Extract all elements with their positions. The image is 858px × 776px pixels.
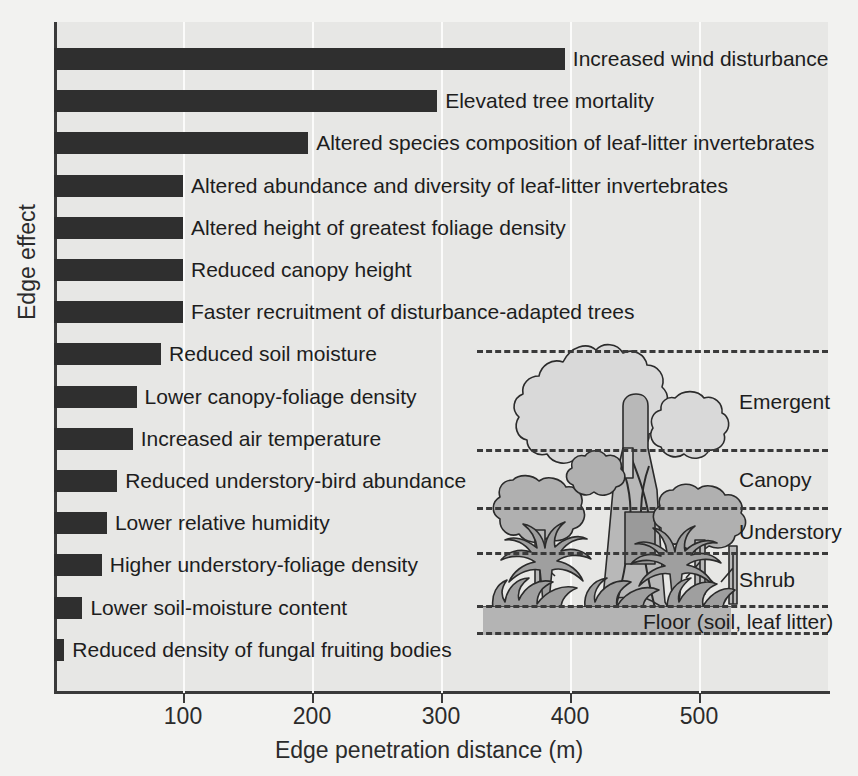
bar-label: Reduced understory-bird abundance: [125, 470, 466, 492]
bar: [54, 428, 133, 450]
x-tick-500: [699, 694, 701, 703]
x-tick-100: [183, 694, 185, 703]
strata-divider-emergent-top: [477, 350, 828, 353]
bar: [54, 639, 64, 661]
rainforest-strata-diagram: Emergent Canopy Understory Shrub Floor (…: [477, 340, 828, 640]
strata-label-shrub: Shrub: [739, 568, 795, 592]
x-tick-400: [570, 694, 572, 703]
bar-label: Reduced canopy height: [191, 259, 412, 281]
bar-label: Lower relative humidity: [115, 512, 330, 534]
bar: [54, 132, 308, 154]
strata-label-floor: Floor (soil, leaf litter): [643, 610, 833, 634]
strata-divider-emergent-canopy: [477, 449, 828, 452]
strata-label-canopy: Canopy: [739, 468, 811, 492]
strata-divider-understory-shrub: [477, 552, 828, 555]
x-tick-label-500: 500: [680, 703, 718, 730]
bar: [54, 386, 137, 408]
strata-divider-canopy-understory: [477, 507, 828, 510]
bar: [54, 301, 183, 323]
bar-label: Lower soil-moisture content: [90, 597, 347, 619]
x-tick-label-400: 400: [551, 703, 589, 730]
bar: [54, 343, 161, 365]
bar-label: Elevated tree mortality: [445, 90, 654, 112]
x-tick-label-300: 300: [422, 703, 460, 730]
x-axis-title: Edge penetration distance (m): [0, 737, 858, 764]
bar: [54, 48, 565, 70]
strata-divider-shrub-floor: [477, 605, 828, 608]
bar-label: Higher understory-foliage density: [110, 554, 418, 576]
strata-label-emergent: Emergent: [739, 390, 830, 414]
x-tick-label-200: 200: [293, 703, 331, 730]
bar: [54, 470, 117, 492]
bar: [54, 90, 437, 112]
figure-root: 100200300400500 Increased wind disturban…: [0, 0, 858, 776]
bar: [54, 175, 183, 197]
y-axis-title: Edge effect: [14, 204, 41, 320]
strata-label-understory: Understory: [739, 520, 842, 544]
bar-label: Altered species composition of leaf-litt…: [316, 132, 814, 154]
bar-label: Increased wind disturbance: [573, 48, 829, 70]
bar-label: Altered abundance and diversity of leaf-…: [191, 175, 728, 197]
bar: [54, 512, 107, 534]
bar-label: Reduced soil moisture: [169, 343, 377, 365]
x-tick-300: [441, 694, 443, 703]
bar-label: Altered height of greatest foliage densi…: [191, 217, 566, 239]
bar-label: Lower canopy-foliage density: [145, 386, 417, 408]
bar: [54, 554, 102, 576]
bar-label: Increased air temperature: [141, 428, 381, 450]
bar: [54, 597, 82, 619]
bar: [54, 259, 183, 281]
x-tick-200: [312, 694, 314, 703]
x-tick-label-100: 100: [164, 703, 202, 730]
bar: [54, 217, 183, 239]
gridline-300: [441, 22, 443, 693]
bar-label: Faster recruitment of disturbance-adapte…: [191, 301, 635, 323]
bar-label: Reduced density of fungal fruiting bodie…: [72, 639, 451, 661]
